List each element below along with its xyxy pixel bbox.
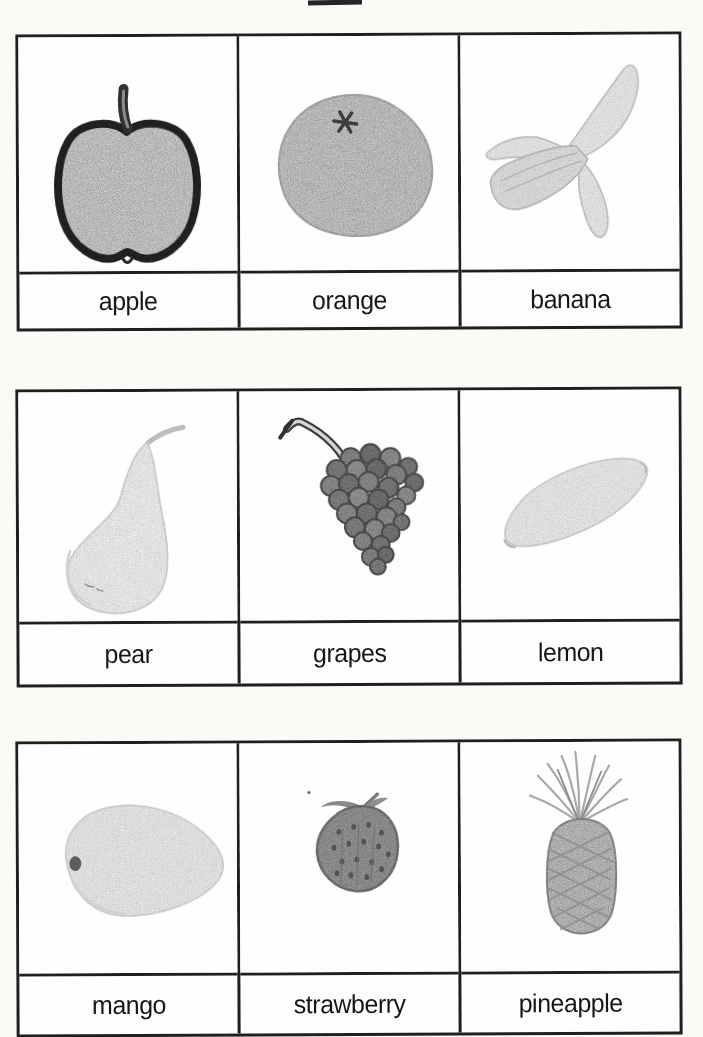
flashcard-apple: apple [18, 36, 240, 328]
apple-label-band: apple [19, 270, 237, 328]
flashcard-row-2: pear [15, 387, 682, 688]
banana-illustration [460, 35, 679, 270]
flashcard-row-3: mango [15, 739, 682, 1037]
lemon-label-band: lemon [461, 619, 679, 683]
flashcard-lemon: lemon [460, 390, 679, 683]
card-label: mango [91, 989, 165, 1020]
strawberry-picture-area [239, 743, 458, 973]
pineapple-picture-area [460, 742, 679, 972]
card-label: apple [99, 285, 158, 316]
card-label: pear [104, 638, 152, 669]
pineapple-illustration [460, 742, 679, 972]
apple-picture-area [18, 36, 237, 271]
lemon-illustration [460, 390, 679, 620]
orange-illustration [239, 36, 458, 271]
card-label: banana [530, 283, 611, 314]
grapes-picture-area [239, 391, 458, 621]
flashcard-pineapple: pineapple [460, 742, 679, 1033]
orange-picture-area [239, 36, 458, 271]
flashcard-mango: mango [18, 743, 240, 1034]
flashcard-grapes: grapes [239, 391, 461, 684]
flashcard-banana: banana [460, 35, 679, 327]
mango-label-band: mango [19, 972, 237, 1034]
pineapple-label-band: pineapple [461, 971, 679, 1033]
flashcard-orange: orange [239, 36, 461, 328]
card-label: orange [312, 284, 387, 315]
top-edge-scan-artifact [308, 0, 362, 5]
flashcard-row-1: apple [15, 32, 682, 332]
lemon-picture-area [460, 390, 679, 620]
card-label: pineapple [518, 987, 622, 1018]
pear-label-band: pear [19, 620, 237, 684]
card-label: grapes [313, 637, 387, 668]
flashcard-pear: pear [18, 391, 240, 684]
mango-picture-area [18, 743, 237, 973]
orange-label-band: orange [240, 270, 458, 328]
grapes-label-band: grapes [240, 620, 458, 684]
banana-picture-area [460, 35, 679, 270]
banana-label-band: banana [461, 269, 679, 327]
pear-illustration [18, 391, 237, 621]
flashcard-strawberry: strawberry [239, 743, 461, 1034]
strawberry-label-band: strawberry [240, 972, 458, 1034]
apple-illustration [18, 36, 237, 271]
card-label: strawberry [294, 988, 406, 1019]
grapes-illustration [239, 391, 458, 621]
mango-illustration [18, 743, 237, 973]
pear-picture-area [18, 391, 237, 621]
strawberry-illustration [239, 743, 458, 973]
card-label: lemon [538, 636, 604, 667]
